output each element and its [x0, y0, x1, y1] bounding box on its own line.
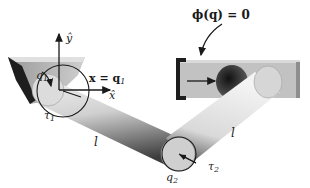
link1-length-label: l — [94, 135, 98, 149]
joint-q2 — [161, 137, 195, 171]
constraint-callout — [201, 24, 222, 55]
link2-length-label: l — [231, 126, 235, 140]
q2-label: q2 — [166, 171, 178, 185]
constraint-label: ϕ(q) = 0 — [192, 8, 250, 22]
tau2-label: τ2 — [208, 160, 219, 174]
two-link-arm-diagram: ϕ(q) = 0 ŷ x̂ x = q1 q1 τ1 l l q2 τ2 — [0, 0, 310, 188]
x-equals-q1-label: x = q1 — [89, 72, 125, 86]
y-axis-label: ŷ — [65, 32, 73, 45]
x-axis-label: x̂ — [109, 89, 116, 102]
